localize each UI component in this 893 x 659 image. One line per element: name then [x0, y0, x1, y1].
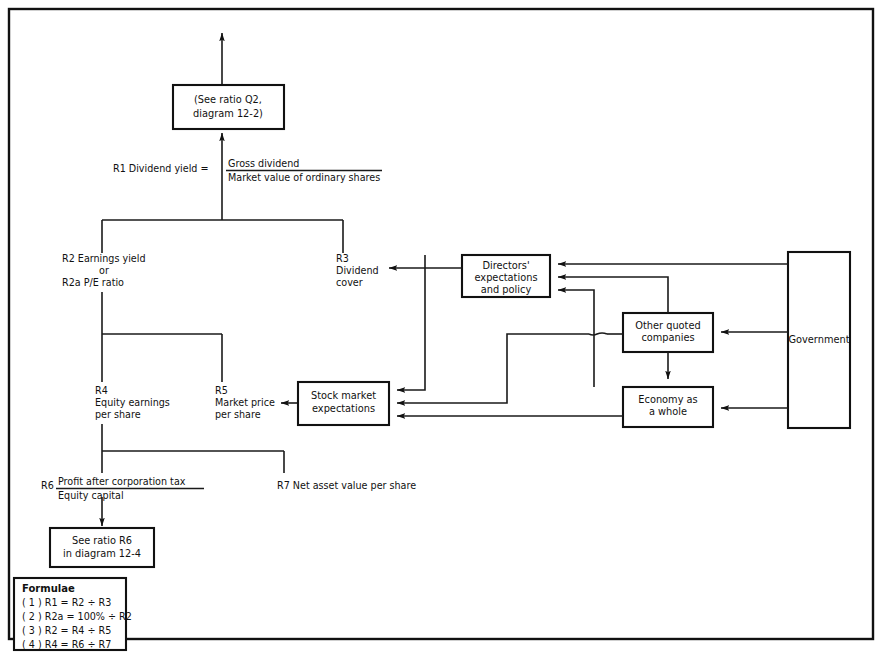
formulae-item-3: ( 3 ) R2 = R4 ÷ R5	[22, 625, 111, 636]
box-stock-market-line2: expectations	[312, 403, 375, 414]
formulae-item-1: ( 1 ) R1 = R2 ÷ R3	[22, 597, 111, 608]
label-r4: R4 Equity earnings per share	[95, 385, 170, 420]
box-other-quoted-line2: companies	[641, 332, 694, 343]
label-r1-denominator: Market value of ordinary shares	[228, 172, 380, 183]
label-r2-line1: R2 Earnings yield	[62, 253, 146, 264]
label-r6-denominator: Equity capital	[58, 490, 124, 501]
box-economy-line2: a whole	[649, 406, 687, 417]
label-r2: R2 Earnings yield or R2a P/E ratio	[62, 253, 146, 288]
branch-r1-to-r2-r3	[102, 196, 343, 253]
label-r3-line3: cover	[336, 277, 363, 288]
label-r4-line3: per share	[95, 409, 141, 420]
label-r7: R7 Net asset value per share	[277, 480, 416, 491]
label-r5-line2: Market price	[215, 397, 275, 408]
label-r5: R5 Market price per share	[215, 385, 275, 420]
label-r2-line3: R2a P/E ratio	[62, 277, 124, 288]
box-directors-line3: and policy	[481, 284, 532, 295]
label-r1-numerator: Gross dividend	[228, 158, 299, 169]
box-directors-expectations: Directors' expectations and policy	[462, 255, 550, 297]
box-see-ratio-r6: See ratio R6 in diagram 12-4	[50, 528, 154, 567]
box-directors-line1: Directors'	[482, 260, 529, 271]
label-r6: R6 Profit after corporation tax Equity c…	[41, 476, 204, 501]
otherquoted-to-stockmarket-link	[397, 333, 623, 403]
label-r1-prefix: R1 Dividend yield =	[113, 163, 209, 174]
box-directors-line2: expectations	[474, 272, 537, 283]
label-r5-line1: R5	[215, 385, 228, 396]
box-economy-line1: Economy as	[638, 394, 697, 405]
investor-ratios-diagram: (See ratio Q2, diagram 12-2) R1 Dividend…	[0, 0, 893, 659]
formulae-box: Formulae ( 1 ) R1 = R2 ÷ R3 ( 2 ) R2a = …	[14, 578, 132, 650]
box-see-ratio-q2-line1: (See ratio Q2,	[194, 94, 262, 105]
box-economy-as-a-whole: Economy as a whole	[623, 387, 713, 427]
branch-r2-to-r4-r5	[102, 292, 222, 382]
label-r4-line1: R4	[95, 385, 108, 396]
otherquoted-to-directors-link	[558, 277, 668, 313]
box-other-quoted-companies: Other quoted companies	[623, 313, 713, 352]
label-r6-prefix: R6	[41, 480, 54, 491]
box-stock-market-expectations: Stock market expectations	[298, 382, 389, 425]
formulae-item-4: ( 4 ) R4 = R6 ÷ R7	[22, 639, 111, 650]
box-government-label: Government	[788, 334, 849, 345]
formulae-heading: Formulae	[22, 583, 75, 594]
label-r3: R3 Dividend cover	[336, 253, 379, 288]
label-r1: R1 Dividend yield = Gross dividend Marke…	[113, 158, 382, 183]
economy-to-directors-link	[558, 290, 594, 387]
label-r4-line2: Equity earnings	[95, 397, 170, 408]
label-r3-line2: Dividend	[336, 265, 379, 276]
box-government: Government	[788, 252, 850, 428]
label-r3-line1: R3	[336, 253, 349, 264]
label-r2-line2: or	[99, 265, 109, 276]
box-see-ratio-q2-line2: diagram 12-2)	[193, 108, 263, 119]
box-see-ratio-q2: (See ratio Q2, diagram 12-2)	[173, 85, 284, 129]
formulae-item-2: ( 2 ) R2a = 100% ÷ R2	[22, 611, 132, 622]
branch-r4-to-r6-r7	[102, 424, 284, 473]
box-see-ratio-r6-line1: See ratio R6	[72, 535, 132, 546]
directors-to-stockmarket-link	[397, 255, 425, 390]
label-r5-line3: per share	[215, 409, 261, 420]
box-see-ratio-r6-line2: in diagram 12-4	[63, 548, 141, 559]
box-stock-market-line1: Stock market	[311, 390, 376, 401]
box-other-quoted-line1: Other quoted	[635, 320, 700, 331]
label-r6-numerator: Profit after corporation tax	[58, 476, 186, 487]
